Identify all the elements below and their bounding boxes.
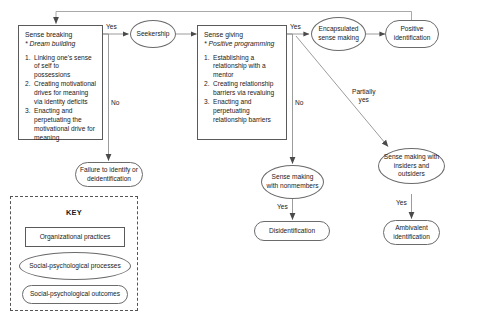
key-item-social-psychological-processes: Social-psychological processes — [19, 252, 131, 280]
sense-giving-title: Sense giving — [204, 31, 243, 40]
list-number: 3. — [25, 107, 31, 116]
list-text: Creating motivational drives for meaning… — [34, 80, 96, 105]
edge-label-giving-yes: Yes — [290, 23, 301, 31]
list-number: 2. — [204, 80, 210, 89]
node-sense-breaking[interactable]: Sense breaking * Dream building 1. Linki… — [18, 25, 103, 140]
sense-breaking-title: Sense breaking — [25, 31, 72, 40]
ambivalent-identification-label: Ambivalent identification — [384, 224, 439, 241]
edge-label-partially-yes: Partially yes — [352, 88, 375, 104]
seekership-label: Seekership — [133, 30, 174, 39]
sense-breaking-subtitle: * Dream building — [25, 40, 75, 49]
node-seekership[interactable]: Seekership — [130, 20, 176, 48]
list-item: 3. Enacting and perpetuating the motivat… — [25, 107, 96, 142]
key-title: KEY — [11, 208, 137, 217]
encapsulated-sense-making-label: Encapsulated sense making — [312, 25, 365, 42]
key-panel: KEY Organizational practices Social-psyc… — [10, 196, 138, 311]
key-item-label: Organizational practices — [40, 233, 111, 241]
failure-to-identify-label: Failure to identify or deidentification — [76, 166, 142, 183]
edge-label-breaking-no: No — [111, 99, 119, 107]
node-sense-giving[interactable]: Sense giving * Positive programming 1. E… — [197, 25, 287, 140]
node-encapsulated-sense-making[interactable]: Encapsulated sense making — [311, 17, 366, 51]
key-item-social-psychological-outcomes: Social-psychological outcomes — [22, 285, 128, 304]
disidentification-label: Disidentification — [265, 227, 319, 236]
sense-giving-subtitle: * Positive programming — [204, 40, 274, 49]
list-number: 1. — [204, 54, 210, 63]
list-item: 2. Creating relationship barriers via re… — [204, 80, 280, 98]
key-item-organizational-practices: Organizational practices — [25, 227, 125, 247]
list-text: Enacting and perpetuating the motivation… — [34, 107, 95, 140]
edge-label-breaking-yes: Yes — [106, 23, 117, 31]
flowchart-canvas: Sense breaking * Dream building 1. Linki… — [0, 0, 481, 322]
key-item-label: Social-psychological processes — [29, 262, 121, 270]
sense-making-nonmembers-label: Sense making with nonmembers — [262, 173, 323, 190]
node-positive-identification[interactable]: Positive identification — [385, 20, 439, 48]
sense-making-insiders-outsiders-label: Sense making with insiders and outsiders — [379, 153, 444, 179]
node-ambivalent-identification[interactable]: Ambivalent identification — [383, 220, 440, 245]
list-item: 3. Enacting and perpetuating relationshi… — [204, 98, 280, 124]
list-number: 2. — [25, 80, 31, 89]
sense-breaking-list: 1. Linking one's sense of self to posses… — [25, 54, 96, 143]
list-text: Linking one's sense of self to possessio… — [34, 54, 92, 79]
list-text: Establishing a relationship with a mento… — [213, 54, 266, 79]
list-number: 1. — [25, 54, 31, 63]
edge-label-giving-no: No — [295, 99, 303, 107]
node-disidentification[interactable]: Disidentification — [254, 221, 330, 241]
node-sense-making-nonmembers[interactable]: Sense making with nonmembers — [261, 165, 324, 199]
key-item-label: Social-psychological outcomes — [30, 290, 120, 298]
edge-label-nonmembers-yes: Yes — [277, 203, 288, 211]
list-number: 3. — [204, 98, 210, 107]
list-item: 1. Establishing a relationship with a me… — [204, 54, 280, 80]
sense-giving-list: 1. Establishing a relationship with a me… — [204, 54, 280, 126]
list-text: Creating relationship barriers via reval… — [213, 80, 274, 96]
node-failure-to-identify[interactable]: Failure to identify or deidentification — [75, 162, 143, 187]
list-item: 1. Linking one's sense of self to posses… — [25, 54, 96, 80]
node-sense-making-insiders-outsiders[interactable]: Sense making with insiders and outsiders — [378, 148, 445, 184]
list-item: 2. Creating motivational drives for mean… — [25, 80, 96, 106]
list-text: Enacting and perpetuating relationship b… — [213, 98, 271, 123]
positive-identification-label: Positive identification — [386, 25, 438, 42]
edge-label-insiders-yes: Yes — [396, 199, 407, 207]
